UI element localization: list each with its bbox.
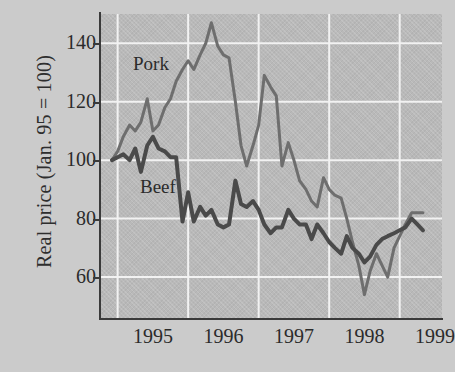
y-tick-mark <box>93 219 100 221</box>
y-tick-mark <box>93 160 100 162</box>
y-tick-mark <box>93 102 100 104</box>
y-tick-mark <box>93 277 100 279</box>
series-annotation-beef: Beef <box>140 176 176 198</box>
y-axis-line <box>99 12 101 320</box>
series-annotation-pork: Pork <box>133 53 169 75</box>
x-tick-label: 1997 <box>264 326 324 346</box>
series-line-beef <box>112 137 423 263</box>
x-axis-line <box>99 318 443 320</box>
y-tick-mark <box>93 43 100 45</box>
x-tick-label: 1996 <box>193 326 253 346</box>
price-index-line-chart: Real price (Jan. 95 = 100) 1401201008060… <box>0 0 455 372</box>
x-tick-label: 1999 <box>405 326 455 346</box>
series-layer <box>0 0 455 372</box>
x-tick-label: 1998 <box>334 326 394 346</box>
x-tick-label: 1995 <box>123 326 183 346</box>
